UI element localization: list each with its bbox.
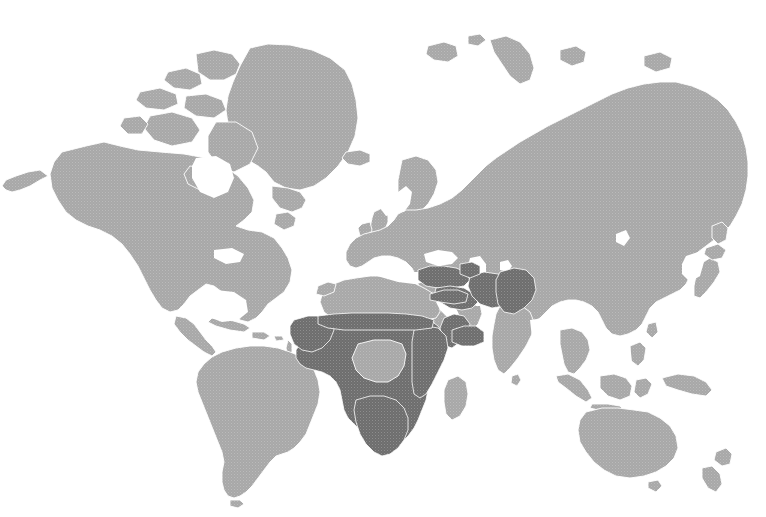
world-map-figure: Highlighted region Other land Ocean Worl…: [0, 0, 766, 517]
world-map-svg: [0, 0, 766, 517]
halftone-texture-overlay: [0, 0, 766, 517]
